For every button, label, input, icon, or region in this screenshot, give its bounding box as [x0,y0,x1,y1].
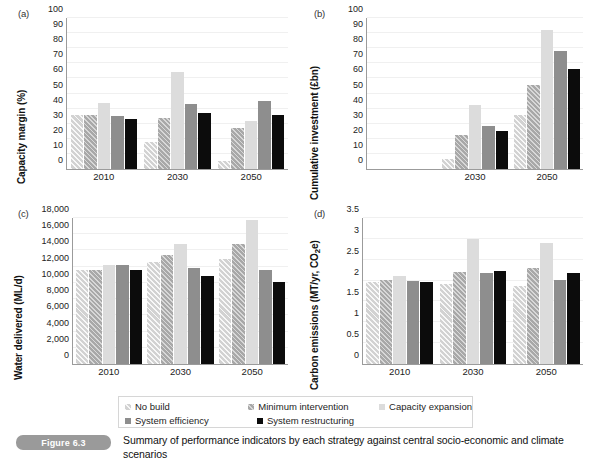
bar-groups: 201020302050 [363,218,583,364]
bar [440,284,453,364]
bar [125,119,138,169]
bar [161,255,174,364]
y-axis-tick-label: 70 [53,50,67,59]
y-axis-tick-label: 0.5 [346,330,363,339]
bar [147,262,160,364]
bar [554,51,567,169]
bar [407,281,420,364]
y-axis-tick-label: 40 [53,95,67,104]
bar [494,271,507,364]
y-axis-tick-label: 90 [353,20,367,29]
plot-area-b: 010203040506070809010020302050 [366,18,583,170]
bar [71,115,84,169]
bar [259,270,272,364]
bar [272,115,285,169]
bar [232,244,245,364]
bar-group: 2030 [141,18,215,169]
y-axis-tick-label: 1 [354,309,363,318]
bar [185,104,198,169]
x-axis-tick-label: 2010 [363,364,436,377]
y-axis-title-b: Cumulative investment (£bn) [309,66,320,200]
bar [171,72,184,169]
y-axis-tick-label: 12,000 [41,253,73,262]
y-axis-tick-label: 0 [58,156,67,165]
y-axis-tick-label: 0 [354,351,363,360]
y-axis-tick-label: 2.5 [346,246,363,255]
bar [76,270,89,364]
bar-group-spacer [367,18,439,169]
bar [174,244,187,364]
legend-item-minimum-intervention: Minimum intervention [248,402,379,412]
bar-group: 2030 [439,18,511,169]
bar [218,161,231,169]
bar-group: 2050 [214,18,288,169]
y-axis-tick-label: 60 [353,65,367,74]
legend-label-system-restructuring: System restructuring [267,416,354,426]
bar [442,159,455,169]
y-axis-tick-label: 4,000 [46,318,73,327]
legend-swatch-icon-no-build [125,404,131,410]
bar [116,265,129,364]
y-axis-tick-label: 0 [64,351,73,360]
plot-area-a: 0102030405060708090100201020302050 [66,18,288,170]
bar [527,268,540,364]
bar [496,131,509,169]
x-axis-tick-label: 2050 [214,169,288,182]
y-axis-tick-label: 50 [353,80,367,89]
plot-area-d: 00.511.522.533.5201020302050 [362,218,583,365]
panel-grid: (a) Capacity margin (%) 0102030405060708… [0,0,591,392]
bar [469,105,482,169]
y-axis-tick-label: 2 [354,267,363,276]
y-axis-tick-label: 20 [353,125,367,134]
y-axis-tick-label: 100 [48,5,67,14]
bar [89,270,102,364]
bar [568,69,581,169]
y-axis-tick-label: 3 [354,225,363,234]
y-axis-tick-label: 14,000 [41,237,73,246]
panel-tag-b: (b) [314,8,325,19]
x-axis-tick-label: 2010 [67,169,141,182]
y-axis-tick-label: 80 [353,35,367,44]
x-axis-tick-label: 2030 [141,169,215,182]
bar [103,265,116,364]
y-axis-tick-label: 70 [353,50,367,59]
bar-group: 2030 [436,218,509,364]
y-axis-title-c: Water delivered (ML/d) [13,275,24,380]
y-axis-tick-label: 6,000 [46,302,73,311]
chart-legend: No build Minimum intervention Capacity e… [118,396,473,428]
bar [467,239,480,364]
bar [231,128,244,169]
chart-panel-b: (b) Cumulative investment (£bn) 01020304… [300,8,591,204]
y-axis-tick-label: 90 [53,20,67,29]
y-axis-tick-label: 8,000 [46,286,73,295]
bar [567,273,580,364]
y-axis-tick-label: 40 [353,95,367,104]
legend-item-system-efficiency: System efficiency [125,416,257,426]
bar-group: 2010 [67,18,141,169]
y-axis-tick-label: 16,000 [41,221,73,230]
panel-tag-d: (d) [314,208,325,219]
panel-tag-c: (c) [18,208,28,219]
bar [420,282,433,364]
bar-group: 2030 [145,218,217,364]
figure-number-badge: Figure 6.3 [16,435,111,450]
legend-swatch-icon-capacity-expansion [379,404,385,410]
figure-caption-text: Summary of performance indicators by eac… [123,434,587,458]
legend-label-no-build: No build [135,402,170,412]
bar [540,243,553,364]
bar-groups: 201020302050 [67,18,288,169]
y-axis-tick-label: 30 [353,110,367,119]
y-axis-tick-label: 2,000 [46,334,73,343]
x-axis-tick-label: 2050 [216,364,288,377]
legend-swatch-icon-system-restructuring [257,418,263,424]
y-axis-tick-label: 10 [53,140,67,149]
bar [201,276,214,364]
bar-group: 2050 [216,218,288,364]
bar [455,135,468,169]
legend-label-minimum-intervention: Minimum intervention [258,402,348,412]
bar [144,142,157,169]
bar [482,126,495,169]
bar [480,273,493,364]
y-axis-tick-label: 100 [348,5,367,14]
y-axis-tick-label: 50 [53,80,67,89]
